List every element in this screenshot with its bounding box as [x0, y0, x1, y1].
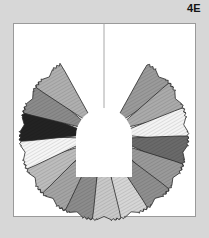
plate-illustration — [0, 0, 209, 238]
figure-root: 4E Radial fan rosette composed of hatche… — [0, 0, 209, 238]
rosette-center-hole — [76, 108, 132, 177]
